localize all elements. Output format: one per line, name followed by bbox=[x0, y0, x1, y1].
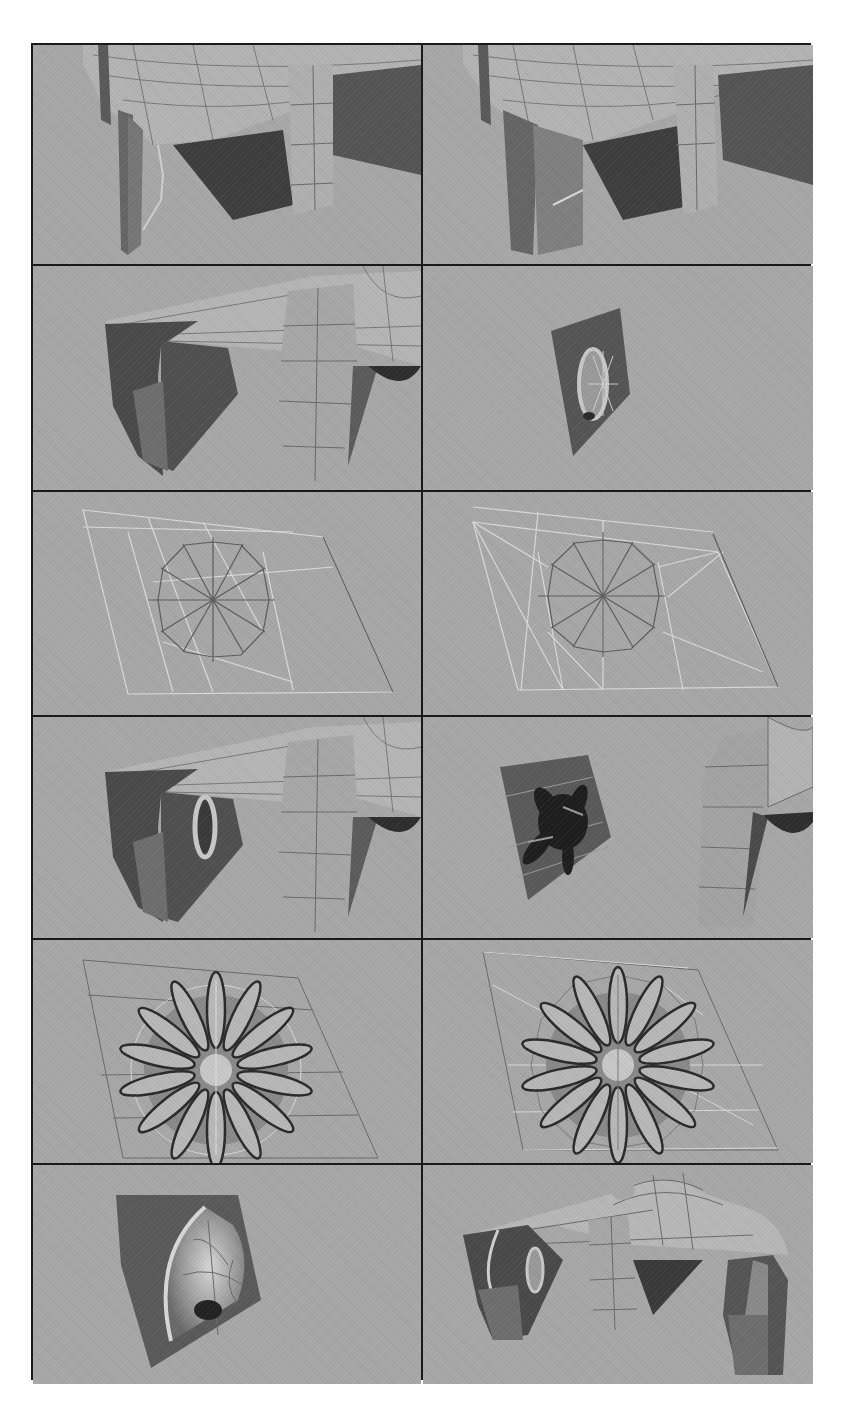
viewport-panel-r3c1 bbox=[33, 492, 421, 715]
fan-front-render bbox=[33, 940, 421, 1163]
fan-blades-panel-render bbox=[423, 717, 813, 938]
circle-wireframe-render bbox=[33, 492, 421, 715]
viewport-panel-r6c1 bbox=[33, 1165, 421, 1384]
circle-triangulated-wireframe-render bbox=[423, 492, 813, 715]
fan-triangulated-render bbox=[423, 940, 813, 1163]
intake-ring-panel-render bbox=[423, 266, 813, 490]
viewport-panel-r4c1 bbox=[33, 717, 421, 938]
viewport-panel-r2c2 bbox=[423, 266, 813, 490]
intake-cone-render bbox=[33, 1165, 421, 1384]
viewport-panel-r1c1 bbox=[33, 45, 421, 264]
viewport-panel-r1c2 bbox=[423, 45, 813, 264]
viewport-panel-r5c1 bbox=[33, 940, 421, 1163]
ship-underside-render bbox=[33, 266, 421, 490]
engine-pod-wall-render bbox=[423, 45, 813, 264]
viewport-panel-r3c2 bbox=[423, 492, 813, 715]
viewport-grid bbox=[31, 43, 811, 1380]
full-ship-render bbox=[423, 1165, 813, 1384]
engine-pod-strip-render bbox=[33, 45, 421, 264]
viewport-panel-r6c2 bbox=[423, 1165, 813, 1384]
ship-with-intake-render bbox=[33, 717, 421, 938]
viewport-panel-r5c2 bbox=[423, 940, 813, 1163]
viewport-panel-r2c1 bbox=[33, 266, 421, 490]
viewport-panel-r4c2 bbox=[423, 717, 813, 938]
